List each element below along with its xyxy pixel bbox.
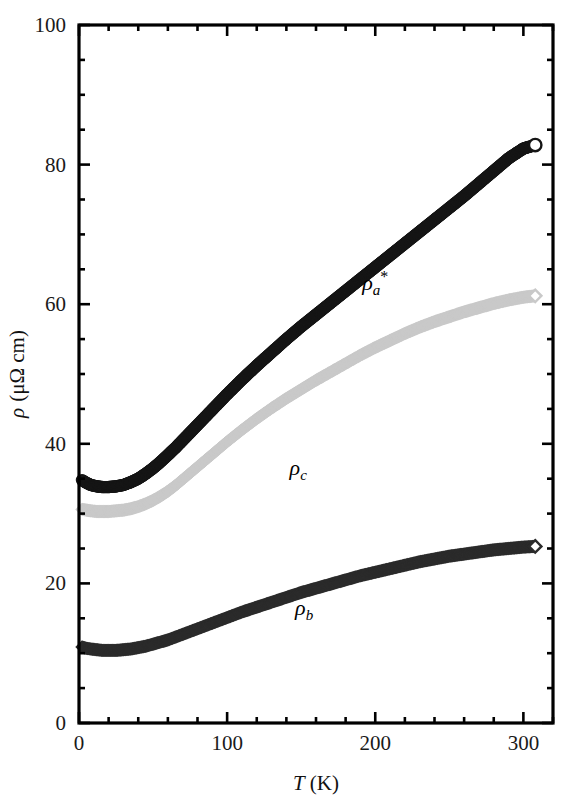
x-tick-label: 0 <box>74 731 85 755</box>
y-tick-label: 80 <box>45 153 66 177</box>
y-tick-label: 20 <box>45 571 66 595</box>
x-tick-label: 300 <box>508 731 540 755</box>
data-point <box>529 139 541 151</box>
y-tick-label: 40 <box>45 432 66 456</box>
y-tick-label: 0 <box>56 711 67 735</box>
svg-text:T(K): T(K) <box>293 771 339 795</box>
x-tick-label: 100 <box>211 731 243 755</box>
chart-background <box>0 0 579 807</box>
y-tick-label: 60 <box>45 292 66 316</box>
x-tick-label: 200 <box>360 731 392 755</box>
y-tick-label: 100 <box>35 13 67 37</box>
figure-container: 0100200300020406080100 ρa*ρcρb T(K) ρ(μΩ… <box>0 0 579 807</box>
x-axis-title: T(K) <box>293 771 339 795</box>
resistivity-vs-temperature-chart: 0100200300020406080100 ρa*ρcρb T(K) ρ(μΩ… <box>0 0 579 807</box>
